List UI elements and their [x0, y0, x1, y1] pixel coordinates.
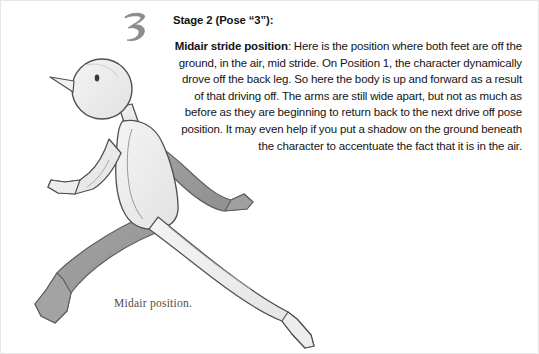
front-leg	[149, 217, 314, 348]
front-arm	[48, 139, 121, 194]
section-heading: Stage 2 (Pose “3”):	[173, 13, 522, 27]
body-lead: Midair stride position	[175, 40, 288, 52]
body-rest: : Here is the position where both feet a…	[179, 40, 522, 152]
body-paragraph: Midair stride position: Here is the posi…	[173, 38, 522, 154]
text-column: Stage 2 (Pose “3”): Midair stride positi…	[173, 13, 522, 154]
illustration-page: Stage 2 (Pose “3”): Midair stride positi…	[0, 0, 539, 354]
figure-caption: Midair position.	[114, 297, 192, 309]
nose	[50, 77, 74, 92]
torso	[116, 120, 178, 229]
eye	[95, 75, 100, 82]
stage-numeral-3	[119, 9, 153, 45]
head	[50, 59, 132, 119]
